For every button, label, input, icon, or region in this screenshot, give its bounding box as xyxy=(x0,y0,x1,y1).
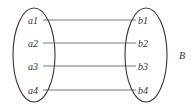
element-b4: b4 xyxy=(138,85,148,96)
element-a2: a2 xyxy=(28,38,38,49)
element-b2: b2 xyxy=(138,38,148,49)
set-mapping-diagram: a1 a2 a3 a4 b1 b2 b3 b4 B xyxy=(0,0,191,110)
element-a1: a1 xyxy=(28,15,38,26)
set-b-label: B xyxy=(179,50,185,61)
element-a4: a4 xyxy=(28,85,38,96)
element-a3: a3 xyxy=(28,61,38,72)
element-b3: b3 xyxy=(138,61,148,72)
element-b1: b1 xyxy=(138,15,148,26)
